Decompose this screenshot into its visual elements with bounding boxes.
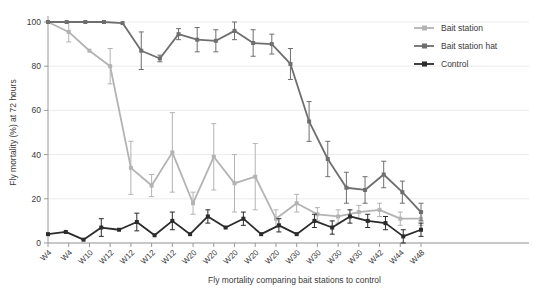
line-chart: 020406080100W4W4W10W12W12W12W12W20W20W20… xyxy=(0,0,549,289)
data-point xyxy=(212,155,216,159)
data-point xyxy=(129,166,133,170)
legend-label: Bait station xyxy=(441,23,483,33)
xtick-label: W42 xyxy=(367,248,385,266)
data-point xyxy=(307,119,311,123)
data-point xyxy=(46,20,50,24)
legend-item-1[interactable]: Bait station hat xyxy=(414,41,498,51)
data-point xyxy=(121,21,125,25)
data-point xyxy=(102,20,106,24)
legend-marker xyxy=(422,62,427,67)
data-point xyxy=(67,30,71,34)
legend-item-2[interactable]: Control xyxy=(414,59,469,69)
ytick-label: 100 xyxy=(27,17,41,27)
data-point xyxy=(150,184,154,188)
ytick-label: 20 xyxy=(32,194,42,204)
xtick-label: W12 xyxy=(160,248,178,266)
data-point xyxy=(195,38,199,42)
data-point xyxy=(83,20,87,24)
data-point xyxy=(82,238,86,242)
xtick-label: W30 xyxy=(326,248,344,266)
ytick-label: 60 xyxy=(32,105,42,115)
data-point xyxy=(288,62,292,66)
y-axis-title: Fly mortality (%) at 72 hours xyxy=(8,79,18,185)
series-bait-station xyxy=(46,20,424,228)
data-point xyxy=(348,214,352,218)
legend-label: Control xyxy=(441,59,469,69)
data-point xyxy=(401,234,405,238)
data-point xyxy=(378,208,382,212)
xtick-label: W12 xyxy=(118,248,136,266)
data-point xyxy=(153,233,157,237)
data-point xyxy=(419,210,423,214)
data-point xyxy=(357,210,361,214)
data-point xyxy=(253,175,257,179)
data-point xyxy=(65,20,69,24)
data-point xyxy=(177,32,181,36)
data-point xyxy=(206,214,210,218)
data-point xyxy=(382,172,386,176)
xtick-label: W4 xyxy=(59,248,74,263)
xtick-label: W20 xyxy=(263,248,281,266)
chart-container: 020406080100W4W4W10W12W12W12W12W20W20W20… xyxy=(0,0,549,289)
data-point xyxy=(214,39,218,43)
xtick-label: W30 xyxy=(305,248,323,266)
data-point xyxy=(295,201,299,205)
xtick-label: W10 xyxy=(77,248,95,266)
xtick-label: W30 xyxy=(346,248,364,266)
series-line xyxy=(48,216,421,239)
data-point xyxy=(99,226,103,230)
data-point xyxy=(277,223,281,227)
data-point xyxy=(135,220,139,224)
xtick-label: W12 xyxy=(139,248,157,266)
data-point xyxy=(336,214,340,218)
xtick-label: W20 xyxy=(180,248,198,266)
data-point xyxy=(170,150,174,154)
ytick-label: 0 xyxy=(36,238,41,248)
data-point xyxy=(295,232,299,236)
data-point xyxy=(233,181,237,185)
xtick-label: W48 xyxy=(408,248,426,266)
xtick-label: W20 xyxy=(243,248,261,266)
data-point xyxy=(251,41,255,45)
xtick-label: W44 xyxy=(388,248,406,266)
data-point xyxy=(326,157,330,161)
data-point xyxy=(419,228,423,232)
x-axis-title: Fly mortality comparing bait stations to… xyxy=(208,275,381,285)
ytick-label: 40 xyxy=(32,150,42,160)
data-point xyxy=(383,221,387,225)
data-point xyxy=(188,232,192,236)
data-point xyxy=(170,219,174,223)
legend-label: Bait station hat xyxy=(441,41,498,51)
data-point xyxy=(46,232,50,236)
data-point xyxy=(344,186,348,190)
xtick-label: W4 xyxy=(39,248,54,263)
xtick-label: W20 xyxy=(222,248,240,266)
data-point xyxy=(87,49,91,53)
legend-marker xyxy=(422,44,427,49)
xtick-label: W20 xyxy=(201,248,219,266)
data-point xyxy=(400,190,404,194)
legend-marker xyxy=(422,26,427,31)
data-point xyxy=(117,228,121,232)
data-point xyxy=(139,49,143,53)
series-control xyxy=(46,210,424,243)
data-point xyxy=(398,217,402,221)
data-point xyxy=(366,219,370,223)
data-point xyxy=(241,217,245,221)
xtick-label: W30 xyxy=(284,248,302,266)
data-point xyxy=(224,226,228,230)
data-point xyxy=(64,230,68,234)
data-point xyxy=(158,56,162,60)
legend-item-0[interactable]: Bait station xyxy=(414,23,483,33)
data-point xyxy=(108,64,112,68)
data-point xyxy=(363,188,367,192)
data-point xyxy=(233,29,237,33)
xtick-label: W12 xyxy=(98,248,116,266)
data-point xyxy=(191,201,195,205)
data-point xyxy=(270,42,274,46)
ytick-label: 80 xyxy=(32,61,42,71)
data-point xyxy=(259,232,263,236)
data-point xyxy=(312,219,316,223)
data-point xyxy=(330,226,334,230)
